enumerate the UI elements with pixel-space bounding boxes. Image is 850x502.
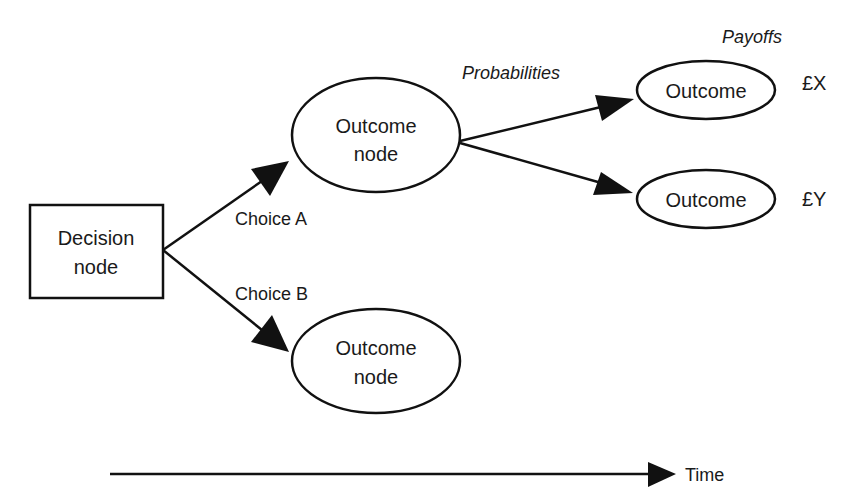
choice-a-edge: Choice A bbox=[163, 161, 307, 250]
probabilities-header: Probabilities bbox=[462, 63, 560, 83]
probability-edge-upper bbox=[460, 95, 634, 141]
leaf-outcome-y-label: Outcome bbox=[665, 189, 746, 211]
decision-node: Decision node bbox=[30, 205, 163, 298]
probability-edge-lower bbox=[460, 143, 633, 195]
time-axis: Time bbox=[110, 462, 724, 487]
probability-line-lower bbox=[460, 143, 605, 184]
time-axis-label: Time bbox=[685, 465, 724, 485]
decision-node-box bbox=[30, 205, 163, 298]
choice-b-label: Choice B bbox=[235, 284, 308, 304]
decision-node-label-line1: Decision bbox=[58, 227, 135, 249]
outcome-node-b-label-line2: node bbox=[354, 366, 399, 388]
leaf-outcome-x-label: Outcome bbox=[665, 80, 746, 102]
leaf-outcome-x: Outcome £X bbox=[637, 61, 826, 119]
choice-b-edge: Choice B bbox=[163, 250, 308, 352]
outcome-node-b-ellipse bbox=[292, 309, 460, 413]
probability-line-upper bbox=[460, 106, 605, 141]
time-arrowhead-icon bbox=[648, 462, 676, 487]
outcome-node-b: Outcome node bbox=[292, 309, 460, 413]
outcome-node-a: Outcome node bbox=[292, 78, 460, 192]
decision-tree-diagram: Probabilities Payoffs Decision node Choi… bbox=[0, 0, 850, 502]
outcome-node-a-label-line2: node bbox=[354, 143, 399, 165]
payoff-y: £Y bbox=[802, 188, 826, 210]
choice-b-arrowhead-icon bbox=[251, 315, 289, 352]
leaf-outcome-y: Outcome £Y bbox=[637, 170, 826, 228]
probability-arrowhead-lower-icon bbox=[593, 172, 633, 195]
decision-node-label-line2: node bbox=[74, 256, 119, 278]
probability-arrowhead-upper-icon bbox=[595, 95, 634, 121]
payoffs-header: Payoffs bbox=[722, 27, 782, 47]
choice-a-arrowhead-icon bbox=[251, 161, 289, 196]
payoff-x: £X bbox=[802, 72, 826, 94]
outcome-node-b-label-line1: Outcome bbox=[335, 337, 416, 359]
choice-a-label: Choice A bbox=[235, 209, 307, 229]
outcome-node-a-label-line1: Outcome bbox=[335, 115, 416, 137]
